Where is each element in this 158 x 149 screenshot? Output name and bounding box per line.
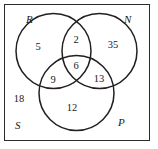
region-count-r-and-n-only: 2 [73, 35, 78, 46]
region-count-r-only: 5 [35, 42, 40, 53]
region-count-n-only: 35 [108, 40, 119, 51]
venn-diagram-figure: R N P S 5 2 35 6 9 13 12 18 [0, 0, 158, 149]
set-label-r: R [26, 14, 33, 25]
set-label-s-universal: S [15, 120, 21, 131]
venn-circles-svg [0, 0, 158, 149]
region-count-n-and-p-only: 13 [94, 74, 105, 85]
region-count-p-only: 12 [67, 103, 78, 114]
set-label-n: N [124, 14, 131, 25]
region-count-r-and-p-only: 9 [50, 75, 55, 86]
region-count-outside-all: 18 [14, 94, 25, 105]
set-label-p: P [118, 117, 125, 128]
region-count-r-and-n-and-p: 6 [73, 61, 78, 72]
